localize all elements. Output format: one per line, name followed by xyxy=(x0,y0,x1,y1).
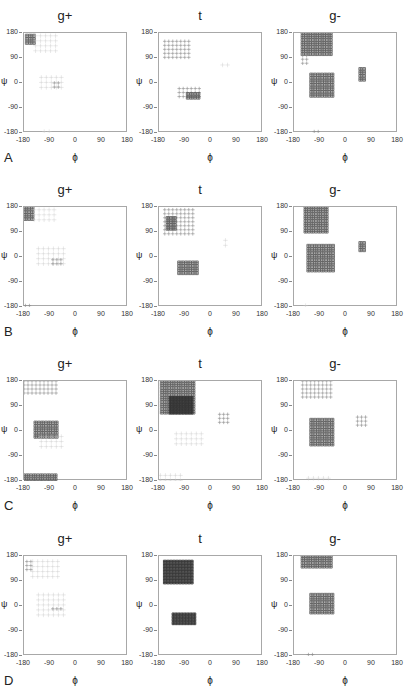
x-axis-label: ϕ xyxy=(200,675,220,686)
x-tick-label: 0 xyxy=(63,659,87,666)
x-tick-label: -90 xyxy=(307,484,331,491)
y-tick-label: -180 xyxy=(268,302,288,309)
y-tick-label: -180 xyxy=(0,651,18,658)
x-tick-label: -180 xyxy=(146,310,170,317)
panel-title: t xyxy=(135,356,265,371)
x-tick-label: -90 xyxy=(37,484,61,491)
y-tick-label: 90 xyxy=(268,227,288,234)
y-tick-label: 180 xyxy=(133,202,153,209)
x-tick-label: 90 xyxy=(224,484,248,491)
x-tick-label: -180 xyxy=(11,484,35,491)
y-axis-label: ψ xyxy=(271,76,277,86)
x-tick-label: 0 xyxy=(198,136,222,143)
x-tick-label: 90 xyxy=(89,659,113,666)
x-tick-label: -90 xyxy=(307,310,331,317)
panel-title: g+ xyxy=(0,8,130,23)
panel-title: t xyxy=(135,531,265,546)
panel-title: t xyxy=(135,182,265,197)
x-axis-label: ϕ xyxy=(200,152,220,163)
x-tick-label: -90 xyxy=(307,136,331,143)
y-tick-label: 180 xyxy=(268,202,288,209)
plot-area xyxy=(158,380,262,480)
x-axis-label: ϕ xyxy=(65,152,85,163)
plot-panel-b-0: g+180900-90-180-180-90090180ψϕB xyxy=(0,178,130,348)
y-tick-label: 90 xyxy=(0,401,18,408)
x-tick-label: 90 xyxy=(359,310,383,317)
x-tick-label: -90 xyxy=(172,310,196,317)
plot-panel-b-2: g-180900-90-180-180-90090180ψϕ xyxy=(270,178,400,348)
panel-title: g- xyxy=(270,531,400,546)
plot-panel-a-2: g-180900-90-180-180-90090180ψϕ xyxy=(270,4,400,174)
x-tick-label: 90 xyxy=(224,136,248,143)
x-tick-label: 90 xyxy=(359,484,383,491)
row-label-b: B xyxy=(4,324,13,339)
y-tick-label: -90 xyxy=(133,277,153,284)
panel-title: g+ xyxy=(0,531,130,546)
plot-area xyxy=(293,206,397,306)
plot-area xyxy=(23,206,127,306)
x-axis-label: ϕ xyxy=(65,675,85,686)
x-tick-label: -180 xyxy=(146,659,170,666)
x-tick-label: 0 xyxy=(63,136,87,143)
x-tick-label: 180 xyxy=(385,659,404,666)
x-tick-label: -90 xyxy=(37,310,61,317)
y-tick-label: 90 xyxy=(268,53,288,60)
panel-title: g- xyxy=(270,8,400,23)
y-tick-label: 90 xyxy=(133,227,153,234)
y-tick-label: 180 xyxy=(0,551,18,558)
x-tick-label: 0 xyxy=(63,484,87,491)
x-axis-label: ϕ xyxy=(65,326,85,337)
plot-area xyxy=(23,32,127,132)
x-axis-label: ϕ xyxy=(200,500,220,511)
plot-panel-d-2: g-180900-90-180-180-90090180ψϕ xyxy=(270,527,400,696)
y-tick-label: -180 xyxy=(0,302,18,309)
y-tick-label: -90 xyxy=(133,626,153,633)
x-tick-label: 0 xyxy=(333,659,357,666)
panel-title: g- xyxy=(270,182,400,197)
x-tick-label: -180 xyxy=(281,484,305,491)
x-tick-label: 90 xyxy=(89,484,113,491)
x-tick-label: -180 xyxy=(146,136,170,143)
plot-panel-d-0: g+180900-90-180-180-90090180ψϕD xyxy=(0,527,130,696)
x-tick-label: -180 xyxy=(11,310,35,317)
y-axis-label: ψ xyxy=(271,250,277,260)
y-tick-label: -90 xyxy=(0,277,18,284)
x-tick-label: 0 xyxy=(333,136,357,143)
x-tick-label: 0 xyxy=(198,659,222,666)
x-tick-label: -180 xyxy=(281,659,305,666)
x-axis-label: ϕ xyxy=(65,500,85,511)
y-tick-label: 180 xyxy=(0,28,18,35)
y-tick-label: -90 xyxy=(268,626,288,633)
y-tick-label: 90 xyxy=(268,576,288,583)
x-tick-label: -90 xyxy=(37,136,61,143)
row-label-d: D xyxy=(4,673,13,688)
y-axis-label: ψ xyxy=(136,424,142,434)
y-axis-label: ψ xyxy=(1,599,7,609)
y-tick-label: -90 xyxy=(268,277,288,284)
y-tick-label: 90 xyxy=(133,53,153,60)
x-tick-label: 0 xyxy=(198,484,222,491)
y-tick-label: -180 xyxy=(268,476,288,483)
plot-area xyxy=(158,206,262,306)
panel-title: g+ xyxy=(0,356,130,371)
y-tick-label: -90 xyxy=(268,451,288,458)
plot-panel-c-2: g-180900-90-180-180-90090180ψϕ xyxy=(270,352,400,522)
row-label-c: C xyxy=(4,498,13,513)
x-tick-label: 90 xyxy=(224,310,248,317)
x-tick-label: -90 xyxy=(172,659,196,666)
y-tick-label: 180 xyxy=(133,376,153,383)
y-tick-label: 90 xyxy=(133,401,153,408)
x-tick-label: 90 xyxy=(89,136,113,143)
x-tick-label: 0 xyxy=(333,484,357,491)
x-axis-label: ϕ xyxy=(335,152,355,163)
y-tick-label: 90 xyxy=(133,576,153,583)
y-tick-label: 90 xyxy=(268,401,288,408)
y-axis-label: ψ xyxy=(136,599,142,609)
plot-area xyxy=(23,380,127,480)
y-tick-label: -180 xyxy=(0,476,18,483)
y-tick-label: -180 xyxy=(133,651,153,658)
x-tick-label: 0 xyxy=(333,310,357,317)
y-tick-label: 180 xyxy=(268,28,288,35)
plot-panel-b-1: t180900-90-180-180-90090180ψϕ xyxy=(135,178,265,348)
x-axis-label: ϕ xyxy=(335,326,355,337)
